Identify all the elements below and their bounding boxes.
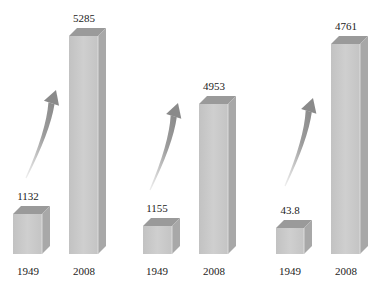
arrow-shaft (25, 102, 54, 178)
bar-side (42, 206, 50, 254)
bar-side (98, 28, 106, 254)
bar-side (228, 96, 236, 254)
x-axis-label: 2008 (73, 265, 96, 277)
growth-arrow-1 (25, 90, 59, 178)
value-label: 43.8 (280, 204, 300, 216)
arrow-shaft (149, 115, 176, 190)
bar-front (276, 228, 304, 254)
bar-2-2008 (199, 96, 236, 254)
bar-1-1949 (13, 206, 50, 254)
x-axis-label: 1949 (17, 265, 40, 277)
value-label: 4953 (203, 80, 226, 92)
chart: 1132528519492008115549531949200843.84761… (0, 0, 384, 291)
x-axis-label: 2008 (203, 265, 226, 277)
value-label: 1155 (146, 202, 168, 214)
value-label: 5285 (73, 12, 96, 24)
bar-3-1949 (276, 220, 312, 254)
bar-front (13, 214, 42, 254)
x-axis-label: 1949 (146, 265, 169, 277)
bar-front (69, 36, 98, 254)
arrow-shaft (284, 110, 311, 186)
bars-layer (13, 28, 368, 254)
bar-1-2008 (69, 28, 106, 254)
bar-2-1949 (143, 218, 180, 254)
bar-front (199, 104, 228, 254)
growth-arrow-3 (284, 98, 316, 186)
value-label: 1132 (17, 190, 39, 202)
bar-side (360, 36, 368, 254)
bar-front (331, 44, 360, 254)
bar-3-2008 (331, 36, 368, 254)
bar-front (143, 226, 172, 254)
growth-arrow-2 (149, 103, 181, 190)
value-label: 4761 (335, 20, 357, 32)
x-axis-label: 2008 (335, 265, 358, 277)
x-axis-label: 1949 (279, 265, 302, 277)
